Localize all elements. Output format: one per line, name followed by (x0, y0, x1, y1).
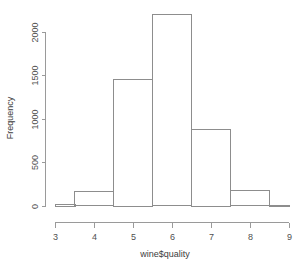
histogram-bars (56, 15, 290, 207)
y-tick-label-2000: 2000 (30, 22, 40, 42)
y-axis-ticks (42, 33, 46, 207)
histogram-bar-6 (153, 15, 192, 206)
y-tick-label-0: 0 (30, 204, 40, 209)
x-tick-label-6: 6 (170, 232, 175, 242)
histogram-plot-panel: 0500100015002000 3456789 wine$quality Fr… (0, 0, 297, 267)
y-tick-label-1500: 1500 (30, 65, 40, 85)
histogram-canvas: 0500100015002000 3456789 wine$quality Fr… (0, 0, 297, 267)
x-tick-label-8: 8 (248, 232, 253, 242)
x-axis-tick-labels: 3456789 (53, 232, 292, 242)
x-axis-ticks (56, 223, 290, 228)
x-tick-label-4: 4 (92, 232, 97, 242)
x-tick-label-3: 3 (53, 232, 58, 242)
histogram-bar-9 (270, 206, 290, 207)
y-axis-title: Frequency (5, 96, 15, 139)
histogram-bar-7 (192, 130, 231, 207)
x-tick-label-5: 5 (131, 232, 136, 242)
histogram-bar-3 (56, 205, 76, 207)
x-tick-label-9: 9 (287, 232, 292, 242)
histogram-bar-5 (114, 80, 153, 207)
y-axis-tick-labels: 0500100015002000 (30, 22, 40, 209)
x-axis-title: wine$quality (139, 249, 190, 259)
y-tick-label-500: 500 (30, 155, 40, 170)
x-tick-label-7: 7 (209, 232, 214, 242)
histogram-bar-8 (231, 191, 270, 206)
y-tick-label-1000: 1000 (30, 109, 40, 129)
histogram-bar-4 (75, 192, 114, 206)
